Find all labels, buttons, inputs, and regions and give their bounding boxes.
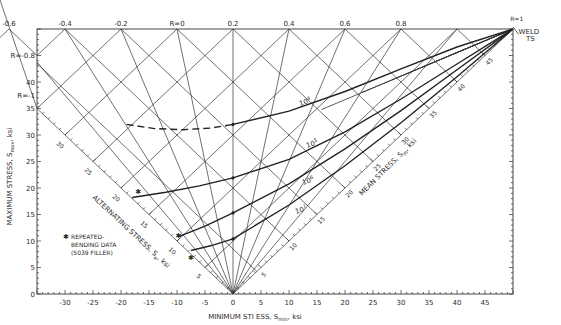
sa-tick	[93, 159, 96, 162]
sm-tick	[438, 96, 440, 98]
sa-tick	[160, 223, 162, 225]
x-tick-label: -15	[143, 299, 154, 307]
sm-tick-label: 20	[344, 188, 354, 198]
sm-tick	[314, 212, 317, 215]
sm-tick	[472, 64, 474, 66]
r-ratio-label: R=0	[169, 20, 184, 28]
life-curve-107	[191, 29, 513, 251]
sa-tick	[110, 176, 112, 178]
sa-tick	[138, 202, 140, 204]
curve-point	[231, 237, 234, 240]
r-ratio-label: 0.2	[227, 20, 238, 28]
sa-tick	[104, 170, 106, 172]
r-ratio-label: -0.4	[58, 20, 72, 28]
sa-tick-label: 30	[55, 140, 65, 150]
sa-tick	[171, 234, 173, 236]
construction-line	[0, 29, 9, 56]
life-curve-104	[233, 29, 513, 124]
sm-tick-label: 15	[316, 215, 326, 225]
construction-line	[93, 29, 233, 162]
legend-text: BENDING DATA	[71, 241, 117, 248]
sa-tick	[183, 245, 185, 247]
sm-tick	[298, 229, 300, 231]
y-tick-label: 30	[26, 132, 35, 140]
sa-tick	[76, 144, 78, 146]
sa-tick-label: 25	[83, 166, 93, 176]
sm-tick	[332, 197, 334, 199]
legend-text: REPEATED-	[71, 233, 104, 240]
x-tick-label: 15	[313, 299, 322, 307]
sm-tick	[354, 176, 356, 178]
sa-tick	[71, 139, 73, 141]
sm-tick-label: 45	[484, 56, 494, 66]
sm-tick	[422, 112, 424, 114]
construction-line	[37, 29, 121, 109]
chart-canvas: -30-25-20-15-10-505101520253035404505101…	[0, 0, 561, 325]
sa-tick	[143, 207, 145, 209]
x-tick-label: 40	[453, 299, 462, 307]
sa-tick	[127, 192, 129, 194]
sa-tick	[43, 112, 45, 114]
construction-line	[121, 29, 317, 215]
r-ratio-line	[121, 29, 233, 294]
sm-tick	[293, 234, 295, 236]
r-ratio-label: 0.8	[395, 20, 406, 28]
r-ratio-line	[233, 29, 345, 294]
r-one-label: R=1	[510, 15, 523, 22]
goodman-diagram: -30-25-20-15-10-505101520253035404505101…	[0, 0, 561, 325]
r-ratio-line	[37, 62, 233, 294]
x-tick-label: 25	[369, 299, 378, 307]
x-tick-label: 10	[285, 299, 294, 307]
sm-tick	[433, 101, 435, 103]
labels: -30-25-20-15-10-505101520253035404505101…	[2, 15, 539, 322]
sa-tick	[48, 117, 50, 119]
sm-tick	[258, 265, 261, 268]
sm-tick	[398, 132, 401, 135]
life-curve-dashed	[127, 124, 233, 129]
sa-tick-label: 20	[111, 193, 121, 203]
sm-tick	[410, 123, 412, 125]
sa-tick	[155, 218, 157, 220]
sm-tick	[270, 255, 272, 257]
sm-tick	[450, 86, 452, 88]
r-ratio-label: -0.2	[114, 20, 128, 28]
sm-tick	[349, 181, 351, 183]
r-ratio-label: R=-0.8	[11, 52, 35, 60]
sm-tick	[321, 207, 323, 209]
sm-tick	[254, 271, 256, 273]
sm-tick	[304, 223, 306, 225]
sa-tick-label: 15	[139, 219, 149, 229]
sa-tick	[54, 123, 56, 125]
construction-line	[345, 29, 429, 109]
curve-point	[231, 211, 234, 214]
x-tick-label: 30	[397, 299, 406, 307]
sm-tick	[454, 79, 457, 82]
data-point-marker: ✱	[176, 232, 182, 240]
sm-tick	[461, 75, 463, 77]
sa-tick	[99, 165, 101, 167]
sm-tick	[405, 128, 407, 130]
x-tick-label: 5	[259, 299, 263, 307]
sa-tick	[216, 276, 218, 278]
y-tick-label: 10	[26, 238, 35, 246]
x-tick-label: 45	[481, 299, 490, 307]
r-ratio-label: -0.6	[2, 20, 16, 28]
sm-tick	[444, 91, 446, 93]
sm-tick	[342, 185, 345, 188]
r-ratio-line	[37, 109, 233, 295]
sm-tick	[248, 276, 250, 278]
sa-tick	[166, 229, 168, 231]
sm-tick	[265, 260, 267, 262]
x-tick-label: -25	[87, 299, 98, 307]
x-tick-label: -20	[115, 299, 126, 307]
life-curve-105	[132, 29, 513, 198]
r-ratio-line	[233, 29, 457, 294]
r-ratio-label: R=-1	[17, 92, 35, 100]
r-ratio-label: 0.6	[339, 20, 351, 28]
curve-label: 107	[294, 203, 309, 216]
sa-tick	[211, 271, 213, 273]
sm-tick-label: 35	[428, 109, 438, 119]
curve-label: 105	[305, 137, 320, 150]
sm-tick-label: 5	[260, 270, 268, 278]
x-tick-label: 35	[425, 299, 434, 307]
